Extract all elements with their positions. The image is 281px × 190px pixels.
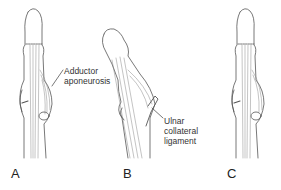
- label-ulnar-collateral-ligament: Ulnar collateral ligament: [164, 116, 198, 146]
- thumb-diagram-c: [232, 9, 264, 158]
- label-adductor-aponeurosis: Adductor aponeurosis: [64, 66, 110, 86]
- panel-label-c: C: [227, 166, 236, 181]
- panel-label-b: B: [123, 166, 132, 181]
- thumb-diagram-b: [102, 29, 163, 158]
- panel-label-a: A: [11, 166, 20, 181]
- thumb-anatomy-illustration: [0, 0, 281, 190]
- thumb-diagram-a: [20, 9, 63, 158]
